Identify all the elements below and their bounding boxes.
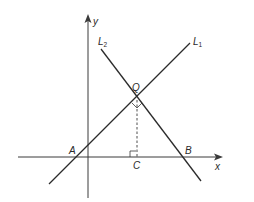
- point-C-label: C: [133, 160, 141, 171]
- x-axis-label: x: [214, 161, 221, 172]
- point-Q-label: Q: [132, 82, 140, 93]
- line-L1: L1: [49, 36, 203, 184]
- y-axis: y: [85, 14, 100, 198]
- point-A-label: A: [68, 145, 76, 156]
- line-L2-label: L2: [98, 36, 108, 48]
- point-B-label: B: [185, 145, 192, 156]
- y-axis-label: y: [92, 16, 99, 27]
- right-angle-mark-C-icon: [130, 151, 136, 157]
- coordinate-diagram: x y L1 L2 Q A B C: [0, 0, 254, 202]
- line-L2: L2: [98, 36, 201, 181]
- line-L1-label: L1: [193, 36, 203, 48]
